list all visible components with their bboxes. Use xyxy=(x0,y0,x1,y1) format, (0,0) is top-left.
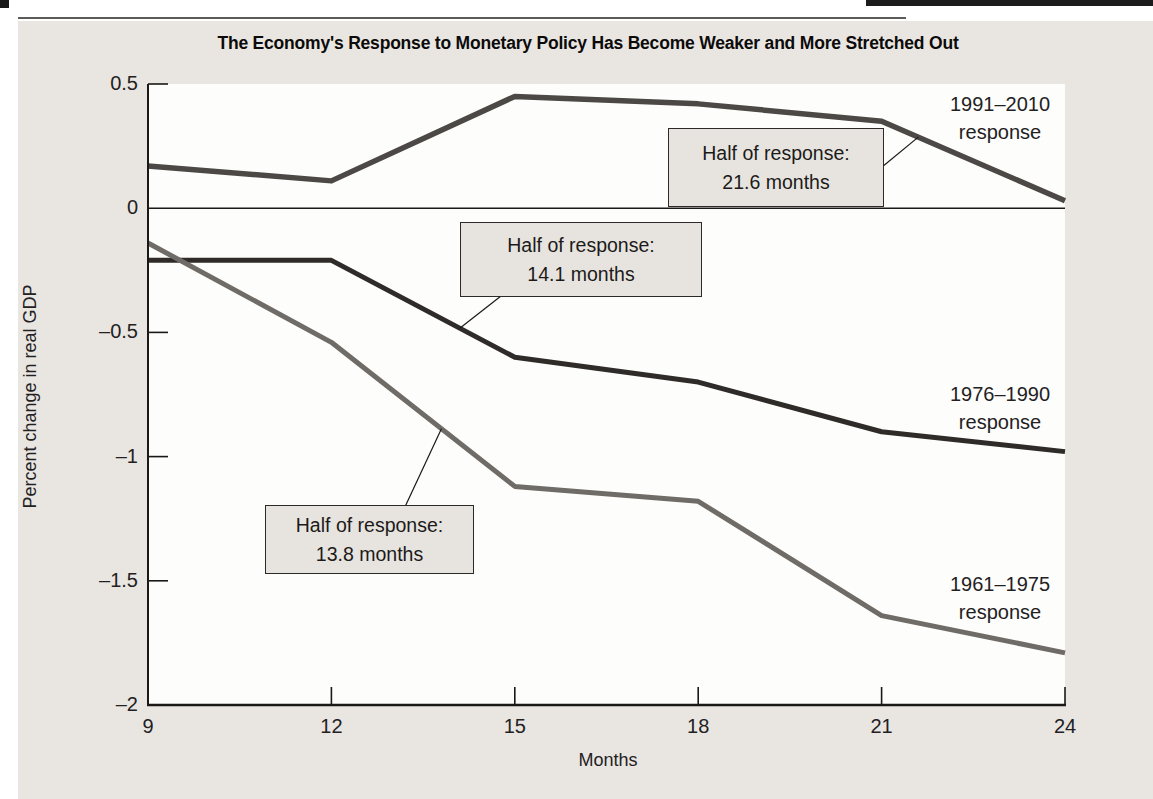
divider-rule xyxy=(18,17,906,19)
y-tick-label: –1 xyxy=(68,445,138,468)
scan-artifact-top-left xyxy=(0,0,9,8)
x-tick-label: 9 xyxy=(108,715,188,738)
x-tick-label: 18 xyxy=(658,715,738,738)
scanned-page: The Economy's Response to Monetary Polic… xyxy=(0,0,1153,799)
figure-panel: The Economy's Response to Monetary Polic… xyxy=(18,21,1153,799)
y-axis-title: Percent change in real GDP xyxy=(20,227,41,567)
series-label-1: 1976–1990response xyxy=(920,380,1080,436)
y-tick-label: 0.5 xyxy=(68,72,138,95)
series-label-line: 1991–2010 xyxy=(920,90,1080,118)
x-tick-label: 15 xyxy=(475,715,555,738)
y-tick-label: –2 xyxy=(68,693,138,716)
annotation-text-line: Half of response: xyxy=(507,231,654,260)
series-label-line: response xyxy=(920,598,1080,626)
x-tick-label: 21 xyxy=(842,715,922,738)
annotation-box-2: Half of response:13.8 months xyxy=(265,505,474,574)
annotation-text-line: Half of response: xyxy=(296,511,443,540)
series-label-line: 1976–1990 xyxy=(920,380,1080,408)
annotation-box-1: Half of response:14.1 months xyxy=(460,222,702,297)
series-label-2: 1961–1975response xyxy=(920,570,1080,626)
series-label-line: response xyxy=(920,408,1080,436)
annotation-text-line: Half of response: xyxy=(702,139,849,168)
y-tick-label: 0 xyxy=(68,196,138,219)
series-label-line: 1961–1975 xyxy=(920,570,1080,598)
scan-artifact-top-right xyxy=(866,0,1153,6)
annotation-text-line: 13.8 months xyxy=(316,540,423,569)
series-label-line: response xyxy=(920,118,1080,146)
annotation-text-line: 14.1 months xyxy=(527,260,634,289)
x-tick-label: 24 xyxy=(1025,715,1105,738)
annotation-text-line: 21.6 months xyxy=(722,168,829,197)
y-tick-label: –1.5 xyxy=(68,569,138,592)
x-tick-label: 12 xyxy=(291,715,371,738)
series-label-0: 1991–2010response xyxy=(920,90,1080,146)
x-axis-title: Months xyxy=(458,750,758,771)
annotation-box-0: Half of response:21.6 months xyxy=(668,128,884,207)
y-tick-label: –0.5 xyxy=(68,320,138,343)
